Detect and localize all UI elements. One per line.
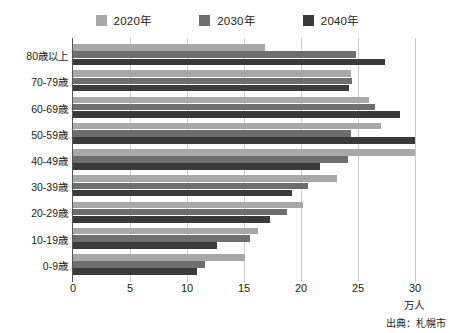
y-axis-tick-label: 0-9歳 <box>0 258 68 273</box>
bar-2040年-10-19歳 <box>73 242 217 249</box>
bar-2040年-60-69歳 <box>73 111 400 118</box>
legend-label: 2020年 <box>114 12 152 28</box>
bar-row <box>73 226 415 252</box>
bar-2020年-0-9歳 <box>73 254 245 261</box>
bar-2030年-20-29歳 <box>73 209 287 216</box>
bar-2030年-0-9歳 <box>73 261 205 268</box>
bar-row <box>73 42 415 68</box>
x-axis-tick-label: 0 <box>70 282 76 294</box>
x-axis-tick-label: 20 <box>295 282 307 294</box>
plot-area <box>73 42 415 278</box>
y-axis-tick-label: 30-39歳 <box>0 179 68 194</box>
source-note: 出典：札幌市 <box>386 315 446 330</box>
bar-2030年-70-79歳 <box>73 78 352 85</box>
bar-row <box>73 173 415 199</box>
legend-label: 2040年 <box>321 12 359 28</box>
bar-rows <box>73 42 415 278</box>
bar-2020年-60-69歳 <box>73 97 369 104</box>
bar-2030年-40-49歳 <box>73 156 348 163</box>
bar-2030年-10-19歳 <box>73 235 250 242</box>
legend-swatch-icon <box>96 15 107 26</box>
y-axis-tick-label: 60-69歳 <box>0 101 68 116</box>
bar-2040年-50-59歳 <box>73 137 415 144</box>
bar-2020年-20-29歳 <box>73 202 303 209</box>
x-axis-tick-label: 10 <box>181 282 193 294</box>
bar-row <box>73 68 415 94</box>
bar-2040年-30-39歳 <box>73 190 292 197</box>
legend-item-2020年[interactable]: 2020年 <box>96 12 152 28</box>
chart-legend: 2020年2030年2040年 <box>0 12 454 28</box>
y-axis-tick-label: 20-29歳 <box>0 205 68 220</box>
legend-swatch-icon <box>303 15 314 26</box>
legend-item-2040年[interactable]: 2040年 <box>303 12 359 28</box>
x-axis-tick-label: 15 <box>238 282 250 294</box>
bar-2020年-30-39歳 <box>73 175 337 182</box>
bar-row <box>73 94 415 120</box>
bar-2040年-20-29歳 <box>73 216 270 223</box>
bar-2020年-50-59歳 <box>73 123 381 130</box>
gridline-30 <box>415 38 416 282</box>
bar-2020年-70-79歳 <box>73 70 351 77</box>
y-axis-tick-label: 80歳以上 <box>0 48 68 63</box>
x-axis-tick-label: 25 <box>352 282 364 294</box>
bar-2040年-40-49歳 <box>73 163 320 170</box>
bar-2040年-0-9歳 <box>73 268 197 275</box>
bar-row <box>73 147 415 173</box>
population-bar-chart: 2020年2030年2040年 80歳以上70-79歳60-69歳50-59歳4… <box>0 0 454 333</box>
x-axis-tick-label: 30 <box>409 282 421 294</box>
bar-2040年-80歳以上 <box>73 59 385 66</box>
bar-2030年-60-69歳 <box>73 104 375 111</box>
y-axis-tick-label: 40-49歳 <box>0 153 68 168</box>
legend-item-2030年[interactable]: 2030年 <box>199 12 255 28</box>
bar-2030年-80歳以上 <box>73 51 356 58</box>
bar-2020年-40-49歳 <box>73 149 415 156</box>
bar-row <box>73 252 415 278</box>
bar-2020年-80歳以上 <box>73 44 265 51</box>
y-axis-tick-label: 50-59歳 <box>0 127 68 142</box>
legend-swatch-icon <box>199 15 210 26</box>
bar-2020年-10-19歳 <box>73 228 258 235</box>
y-axis-tick-label: 10-19歳 <box>0 232 68 247</box>
legend-label: 2030年 <box>217 12 255 28</box>
bar-2030年-30-39歳 <box>73 183 308 190</box>
y-axis-tick-label: 70-79歳 <box>0 74 68 89</box>
y-axis-labels: 80歳以上70-79歳60-69歳50-59歳40-49歳30-39歳20-29… <box>0 42 68 278</box>
bar-row <box>73 199 415 225</box>
x-axis-unit-label: 万人 <box>404 297 424 312</box>
bar-2030年-50-59歳 <box>73 130 351 137</box>
x-axis-tick-label: 5 <box>127 282 133 294</box>
bar-2040年-70-79歳 <box>73 85 349 92</box>
x-axis-labels: 051015202530 <box>73 282 415 298</box>
bar-row <box>73 121 415 147</box>
